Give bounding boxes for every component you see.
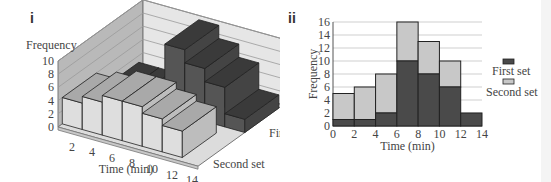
y-tick-label: 6 xyxy=(324,80,330,94)
x-tick-label: 14 xyxy=(186,173,198,182)
x-tick-label: 0 xyxy=(330,127,336,141)
x-tick-label: 12 xyxy=(166,168,178,182)
x-tick-label: 4 xyxy=(89,145,95,159)
bar-second-set xyxy=(397,22,418,61)
y-tick-label: 2 xyxy=(324,106,330,120)
x-tick-label: 14 xyxy=(476,127,488,141)
x-tick-label: 2 xyxy=(69,140,75,154)
bar-first-set xyxy=(354,120,375,127)
y-axis-label: Frequency xyxy=(26,38,77,52)
depth-label-first-set: First set xyxy=(269,126,280,140)
y-tick-label: 6 xyxy=(48,80,54,94)
x-tick-label: 10 xyxy=(433,127,445,141)
x-tick-label: 4 xyxy=(373,127,379,141)
y-tick-label: 8 xyxy=(324,67,330,81)
y-tick-label: 2 xyxy=(48,107,54,121)
chart-stacked-histogram: 024681012141602468101214Time (min)Freque… xyxy=(280,0,542,182)
bar-first-set xyxy=(461,113,482,126)
bar-second-set xyxy=(418,42,439,75)
x-tick-label: 12 xyxy=(455,127,467,141)
legend-swatch-second-set xyxy=(503,79,514,84)
y-tick-label: 4 xyxy=(324,93,330,107)
bar-first-set xyxy=(333,120,354,127)
bar-first-set xyxy=(439,87,460,126)
bar-first-set xyxy=(418,74,439,126)
y-tick-label: 14 xyxy=(318,28,330,42)
bar-first-set xyxy=(397,61,418,126)
bar-second-set xyxy=(354,87,375,120)
y-axis-label: Frequency xyxy=(306,49,320,100)
x-tick-label: 2 xyxy=(351,127,357,141)
bar-first-set xyxy=(376,113,397,126)
y-tick-label: 10 xyxy=(42,54,54,68)
y-tick-label: 8 xyxy=(48,67,54,81)
chart-3d-frequency: 0246810Frequency2468101214Time (min)Seco… xyxy=(0,0,280,182)
bar3d-second-set xyxy=(102,96,122,141)
bar3d-second-set xyxy=(122,101,142,146)
bar3d-second-set xyxy=(82,97,102,136)
bar3d-second-set xyxy=(142,113,162,152)
bar-second-set xyxy=(333,94,354,120)
x-axis-label: Time (min) xyxy=(99,162,154,176)
x-axis-label: Time (min) xyxy=(380,139,435,153)
y-tick-label: 16 xyxy=(318,15,330,29)
bar-second-set xyxy=(376,74,397,113)
depth-label-second-set: Second set xyxy=(213,157,265,171)
legend-label-first-set: First set xyxy=(492,64,531,78)
y-tick-label: 4 xyxy=(48,94,54,108)
y-tick-label: 0 xyxy=(48,120,54,134)
bar-second-set xyxy=(439,61,460,87)
legend-label-second-set: Second set xyxy=(486,85,538,99)
page-edge xyxy=(541,0,551,182)
